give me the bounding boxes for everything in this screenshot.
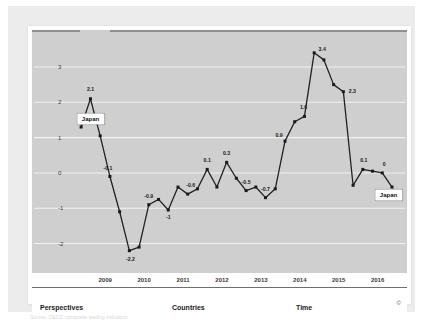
chart-svg (32, 30, 407, 273)
data-point-label: 1.6 (300, 106, 307, 111)
copyright-icon: © (397, 300, 401, 307)
y-tick-label: -2 (58, 241, 63, 247)
data-point-label: -1 (166, 215, 171, 220)
data-point-label: 2.3 (349, 89, 356, 94)
y-tick-label: 1 (58, 135, 61, 141)
plot-region: 3210-1-2 2.1-0.1-2.2-0.9-1-0.60.10.3-0.5… (32, 30, 407, 273)
nav-item-perspectives[interactable]: Perspectives (40, 304, 83, 312)
line-chart-canvas[interactable] (32, 30, 407, 273)
x-tick-label: 2015 (332, 277, 345, 283)
data-point-label: 2.1 (87, 87, 94, 92)
data-point-label: 0 (383, 162, 386, 167)
data-point-label: -0.6 (186, 183, 195, 188)
y-tick-label: -1 (58, 205, 63, 211)
x-tick-label: 2012 (215, 277, 228, 283)
data-point-label: 0.9 (275, 133, 282, 138)
chart-widget: 3210-1-2 2.1-0.1-2.2-0.9-1-0.60.10.3-0.5… (0, 0, 423, 327)
x-tick-label: 2010 (137, 277, 150, 283)
under-caption: Source: OECD composite leading indicator… (30, 314, 128, 320)
x-tick-label: 2009 (99, 277, 112, 283)
series-callout-japan[interactable]: Japan (375, 189, 402, 200)
data-point-label: -0.5 (242, 180, 251, 185)
y-tick-label: 0 (58, 170, 61, 176)
data-point-label: 0.3 (223, 152, 230, 157)
data-point-label: -2.2 (126, 257, 135, 262)
widget-outer-frame: 3210-1-2 2.1-0.1-2.2-0.9-1-0.60.10.3-0.5… (8, 6, 415, 312)
data-point-label: 3.4 (319, 47, 326, 52)
x-tick-label: 2013 (254, 277, 267, 283)
x-tick-label: 2011 (177, 277, 190, 283)
data-point-label: -0.9 (144, 194, 153, 199)
nav-item-time[interactable]: Time (296, 304, 312, 312)
y-tick-label: 3 (58, 64, 61, 70)
nav-item-countries[interactable]: Countries (172, 304, 205, 312)
x-axis-band: 20092010201120122013201420152016 (32, 273, 407, 287)
y-tick-label: 2 (58, 99, 61, 105)
chart-card: 3210-1-2 2.1-0.1-2.2-0.9-1-0.60.10.3-0.5… (28, 26, 411, 304)
series-callout-japan[interactable]: Japan (77, 114, 104, 125)
data-point-label: -0.1 (103, 166, 112, 171)
data-point-label: 0.1 (360, 159, 367, 164)
x-tick-label: 2014 (293, 277, 306, 283)
data-point-label: 0.1 (204, 159, 211, 164)
x-tick-label: 2016 (371, 277, 384, 283)
data-point-label: -0.7 (261, 187, 270, 192)
nav-spacer (32, 288, 407, 300)
